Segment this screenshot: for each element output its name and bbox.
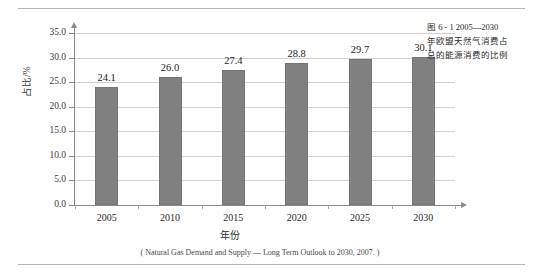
y-axis-line <box>74 27 75 206</box>
bar[interactable] <box>349 59 372 205</box>
x-axis-tick <box>455 205 456 209</box>
y-axis-tick <box>69 156 74 157</box>
bar-chart-figure: 35.030.025.020.015.010.05.00.0 占比/% 24.1… <box>0 0 543 273</box>
caption-line-1: 图 6 - 1 2005—2030 <box>427 20 539 34</box>
caption-line-2: 年欧盟天然气消费占 <box>427 34 539 48</box>
x-axis-tick-label: 2030 <box>400 212 446 223</box>
y-axis-tick-label: 25.0 <box>32 77 66 87</box>
gridline <box>75 58 455 59</box>
gridline <box>75 156 455 157</box>
y-axis-title: 占比/% <box>22 66 32 97</box>
y-axis-tick-label: 20.0 <box>32 102 66 112</box>
bar[interactable] <box>222 70 245 205</box>
bar-value-label: 24.1 <box>87 72 127 83</box>
y-axis-arrow-icon <box>71 22 77 28</box>
y-axis-tick-label: 30.0 <box>32 53 66 63</box>
x-axis-tick-label: 2025 <box>337 212 383 223</box>
bar-value-label: 26.0 <box>150 62 190 73</box>
gridline <box>75 131 455 132</box>
y-axis-tick <box>69 82 74 83</box>
x-axis-tick <box>138 205 139 209</box>
bar-value-label: 29.7 <box>340 44 380 55</box>
x-axis-title: 年份 <box>0 230 460 241</box>
plot-area <box>75 33 455 205</box>
y-axis-tick <box>69 180 74 181</box>
caption-line-3: 总的能源消费的比例 <box>427 48 539 62</box>
y-axis-tick-label: 0.0 <box>32 200 66 210</box>
y-axis-tick-label: 35.0 <box>32 28 66 38</box>
gridline <box>75 107 455 108</box>
bar[interactable] <box>412 57 435 205</box>
x-axis-tick-label: 2015 <box>210 212 256 223</box>
bar[interactable] <box>285 63 308 205</box>
x-axis-tick <box>328 205 329 209</box>
y-axis-tick-label: 15.0 <box>32 126 66 136</box>
bar[interactable] <box>95 87 118 205</box>
y-axis-tick <box>69 131 74 132</box>
x-axis-tick-label: 2010 <box>147 212 193 223</box>
y-axis-tick <box>69 205 74 206</box>
x-axis-line <box>74 205 461 206</box>
bar-value-label: 27.4 <box>213 55 253 66</box>
figure-caption: 图 6 - 1 2005—2030 年欧盟天然气消费占 总的能源消费的比例 <box>427 20 539 62</box>
gridline <box>75 82 455 83</box>
y-axis-tick-label: 10.0 <box>32 151 66 161</box>
gridline <box>75 180 455 181</box>
x-axis-tick <box>75 205 76 209</box>
gridline <box>75 33 455 34</box>
x-axis-tick-label: 2020 <box>274 212 320 223</box>
bar-value-label: 28.8 <box>277 48 317 59</box>
y-axis-tick <box>69 33 74 34</box>
bar[interactable] <box>159 77 182 205</box>
y-axis-tick <box>69 58 74 59</box>
y-axis-tick <box>69 107 74 108</box>
x-axis-tick <box>202 205 203 209</box>
x-axis-arrow-icon <box>461 202 467 208</box>
x-axis-tick <box>265 205 266 209</box>
source-note: ( Natural Gas Demand and Supply — Long T… <box>0 248 520 257</box>
x-axis-tick-label: 2005 <box>84 212 130 223</box>
y-axis-tick-label: 5.0 <box>32 175 66 185</box>
x-axis-tick <box>392 205 393 209</box>
